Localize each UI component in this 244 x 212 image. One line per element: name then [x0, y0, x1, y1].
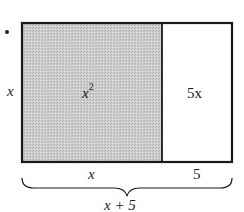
bottom-label-5: 5: [193, 167, 201, 182]
label-base: x: [82, 85, 89, 101]
total-width-label: x + 5: [104, 198, 136, 212]
region-label-x-squared: x2: [82, 84, 94, 101]
curly-brace: [22, 178, 232, 196]
region-label-5x-text: 5x: [187, 85, 202, 101]
left-side-label: x: [7, 84, 14, 99]
region-label-5x: 5x: [187, 86, 202, 101]
area-diagram: [0, 0, 244, 212]
bottom-label-x: x: [88, 167, 95, 182]
label-exponent: 2: [89, 81, 94, 92]
